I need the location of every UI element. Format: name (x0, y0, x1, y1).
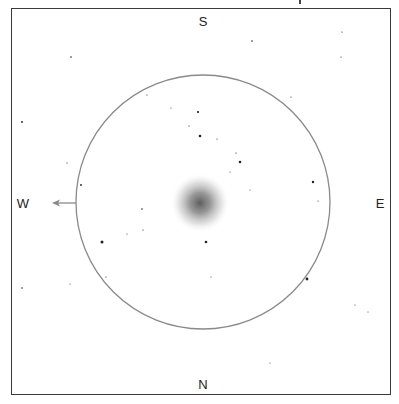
star (312, 181, 314, 183)
star (239, 161, 242, 164)
star (368, 312, 369, 313)
star (171, 108, 172, 109)
star (127, 234, 128, 235)
finder-chart (0, 0, 399, 404)
star (306, 278, 309, 281)
star (340, 56, 341, 57)
star (101, 241, 104, 244)
star (341, 31, 342, 32)
star (21, 287, 23, 289)
star (270, 363, 271, 364)
star (146, 94, 147, 95)
star (251, 40, 253, 42)
star (66, 162, 67, 163)
star (70, 284, 71, 285)
direction-label-east: E (376, 197, 385, 210)
motion-arrow (52, 200, 76, 207)
star (70, 56, 72, 58)
star (142, 229, 143, 230)
star (199, 135, 202, 138)
star (355, 305, 356, 306)
star (250, 190, 251, 191)
star (105, 276, 106, 277)
star (80, 184, 82, 186)
star (21, 121, 23, 123)
direction-label-west: W (17, 197, 29, 210)
star (235, 152, 236, 153)
star (205, 241, 208, 244)
star (141, 208, 143, 210)
cluster-glow (170, 173, 230, 233)
star (197, 111, 199, 113)
star (188, 125, 189, 126)
star (230, 172, 231, 173)
star (211, 277, 212, 278)
star (290, 96, 291, 97)
direction-label-north: N (198, 378, 207, 391)
star (216, 138, 217, 139)
star (318, 201, 319, 202)
direction-label-south: S (199, 15, 208, 28)
